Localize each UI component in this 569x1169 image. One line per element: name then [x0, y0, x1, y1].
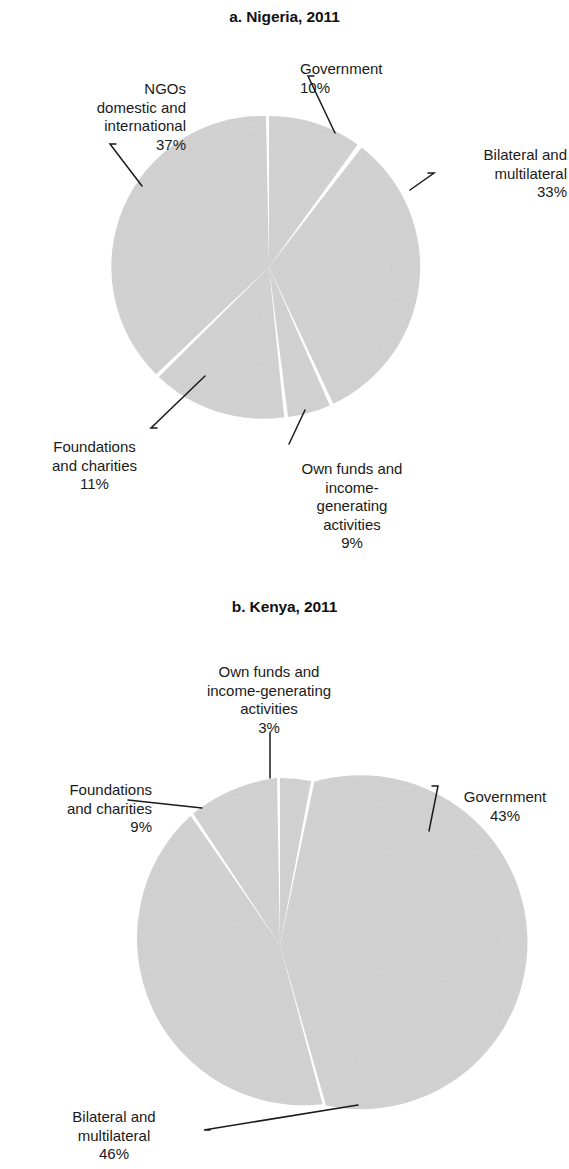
- pie-label-name: Own funds and income-generating activiti…: [207, 663, 331, 717]
- pie-label-bilateral-kenya: Bilateral and multilateral 46%: [28, 1090, 200, 1169]
- pie-chart-kenya: [0, 0, 569, 1169]
- pie-label-name: Government: [464, 788, 547, 805]
- pie-label-percent: 46%: [28, 1145, 200, 1163]
- pie-label-percent: 3%: [148, 719, 390, 737]
- pie-label-name: Bilateral and multilateral: [72, 1108, 155, 1143]
- pie-label-percent: 9%: [0, 818, 152, 836]
- pie-label-name: Foundations and charities: [67, 781, 152, 816]
- pie-label-government-kenya: Government 43%: [444, 770, 566, 844]
- pie-stage-kenya: [0, 0, 569, 1169]
- pie-label-percent: 43%: [444, 807, 566, 825]
- pie-label-own-funds-kenya: Own funds and income-generating activiti…: [148, 645, 390, 756]
- pie-label-foundations-kenya: Foundations and charities 9%: [0, 763, 152, 855]
- leader-line-bilateral: [204, 1105, 358, 1130]
